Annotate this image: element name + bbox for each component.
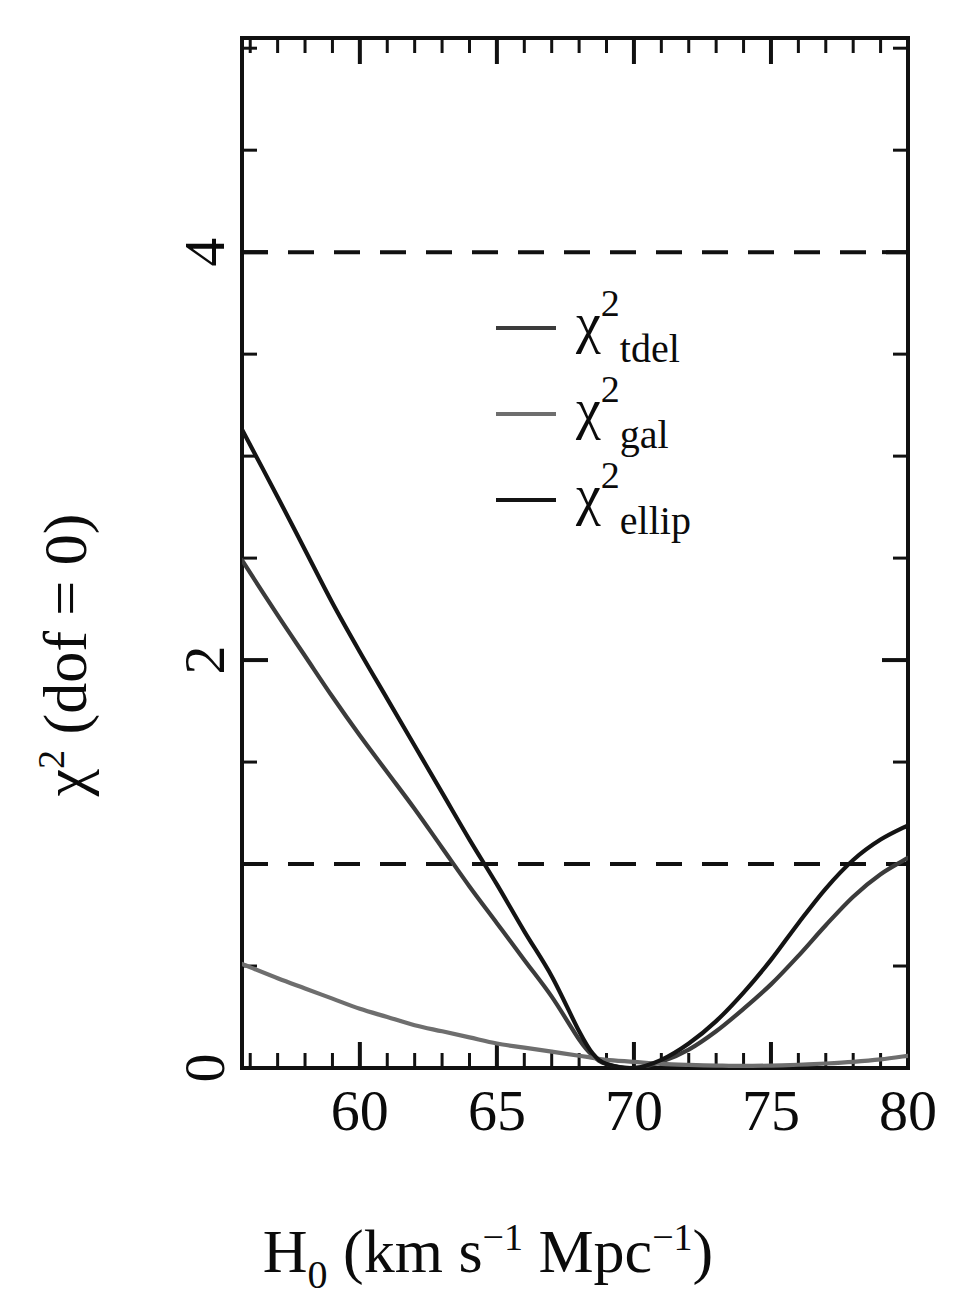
x-title-open: (km s — [328, 1217, 483, 1286]
legend-chi-symbol: χ — [575, 464, 601, 526]
x-tick-label: 60 — [331, 1078, 389, 1143]
y-tick-label: 4 — [172, 238, 237, 267]
x-title-mid: Mpc — [523, 1217, 652, 1285]
y-title-rest: (dof = 0) — [31, 514, 100, 750]
x-tick-label: 70 — [605, 1078, 663, 1143]
y-title-symbol-sup: 2 — [30, 750, 72, 769]
x-title-symbol: H — [263, 1217, 308, 1285]
figure-canvas: 6065707580 024 H0 (km s−1 Mpc−1) χ2 (dof… — [0, 0, 977, 1309]
legend-superscript: 2 — [601, 454, 620, 496]
legend-subscript: ellip — [620, 498, 691, 543]
legend-chi-symbol: χ — [575, 378, 601, 440]
x-title-exp1: −1 — [483, 1216, 523, 1258]
legend-superscript: 2 — [601, 282, 620, 324]
x-tick-label: 80 — [879, 1078, 937, 1143]
x-title-symbol-sub: 0 — [308, 1252, 328, 1297]
y-title-symbol: χ — [31, 768, 99, 797]
y-tick-label: 2 — [172, 646, 237, 675]
legend-superscript: 2 — [601, 368, 620, 410]
chi2-vs-h0-chart: 6065707580 024 H0 (km s−1 Mpc−1) χ2 (dof… — [0, 0, 977, 1309]
x-tick-label: 75 — [742, 1078, 800, 1143]
legend-chi-symbol: χ — [575, 292, 601, 354]
x-title-exp2: −1 — [652, 1216, 692, 1258]
y-tick-label: 0 — [172, 1054, 237, 1083]
legend-subscript: gal — [620, 412, 669, 457]
x-title-close: ) — [693, 1217, 714, 1286]
legend-subscript: tdel — [620, 326, 680, 371]
x-tick-label: 65 — [468, 1078, 526, 1143]
